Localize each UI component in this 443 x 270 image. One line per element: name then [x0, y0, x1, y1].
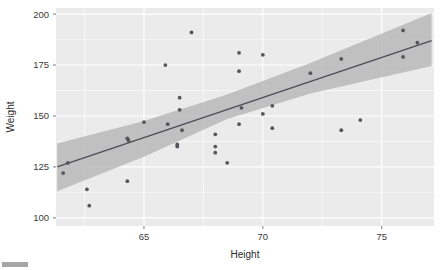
data-point — [163, 63, 167, 67]
data-point — [213, 132, 217, 136]
data-point — [190, 31, 194, 35]
data-point — [127, 139, 131, 143]
y-tick-label: 125 — [33, 161, 49, 172]
data-point — [261, 112, 265, 116]
data-point — [339, 128, 343, 132]
data-point — [178, 96, 182, 100]
data-point — [261, 53, 265, 57]
data-point — [213, 151, 217, 155]
data-point — [401, 29, 405, 33]
data-point — [308, 71, 312, 75]
data-point — [166, 122, 170, 126]
y-tick-label: 200 — [33, 9, 49, 20]
data-point — [237, 69, 241, 73]
x-tick-label: 65 — [139, 231, 150, 242]
data-point — [270, 104, 274, 108]
data-point — [175, 145, 179, 149]
taskbar-chip — [2, 262, 28, 267]
data-point — [240, 106, 244, 110]
data-point — [415, 41, 419, 45]
data-point — [180, 128, 184, 132]
y-tick-label: 100 — [33, 212, 49, 223]
y-tick-label: 150 — [33, 110, 49, 121]
data-point — [358, 118, 362, 122]
data-point — [125, 179, 129, 183]
chart-canvas: 657075 100125150175200 Height Weight — [0, 0, 443, 270]
y-axis-title: Weight — [5, 101, 16, 132]
data-point — [61, 171, 65, 175]
scatter-plot-figure: 657075 100125150175200 Height Weight — [0, 0, 443, 270]
data-point — [213, 145, 217, 149]
data-point — [66, 161, 70, 165]
x-tick-label: 75 — [376, 231, 387, 242]
data-point — [237, 51, 241, 55]
data-point — [237, 122, 241, 126]
data-point — [401, 55, 405, 59]
data-point — [87, 204, 91, 208]
data-point — [178, 108, 182, 112]
data-point — [339, 57, 343, 61]
data-point — [270, 126, 274, 130]
x-axis-title: Height — [231, 249, 260, 260]
y-tick-label: 175 — [33, 59, 49, 70]
data-point — [85, 187, 89, 191]
data-point — [142, 120, 146, 124]
data-point — [225, 161, 229, 165]
x-tick-label: 70 — [258, 231, 269, 242]
